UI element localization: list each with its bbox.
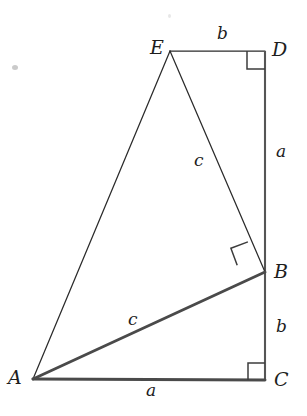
edge-EB (170, 51, 265, 272)
scan-speck-artifact (12, 65, 18, 70)
side-label-AB: c (128, 311, 138, 328)
vertex-label-D: D (272, 40, 287, 59)
side-label-EB: c (194, 152, 204, 169)
scan-speck-artifact (168, 14, 171, 18)
right-angle-at-D (247, 51, 265, 69)
side-label-DB: a (276, 143, 286, 160)
vertex-label-E: E (150, 38, 164, 57)
side-label-ED: b (217, 25, 228, 42)
right-angle-at-C (248, 363, 265, 380)
side-label-AC: a (146, 382, 156, 399)
vertex-label-B: B (274, 262, 288, 281)
edge-group (33, 51, 265, 380)
edge-AB (33, 272, 265, 379)
vertex-label-C: C (274, 370, 289, 389)
side-label-BC: b (276, 318, 287, 335)
right-angle-at-B (231, 242, 248, 265)
edge-AE (33, 51, 170, 379)
vertex-label-A: A (8, 368, 22, 387)
right-angle-mark-group (231, 51, 265, 380)
diagram-canvas (0, 0, 307, 416)
geometry-figure: E D B C A b a c c b a (0, 0, 307, 416)
